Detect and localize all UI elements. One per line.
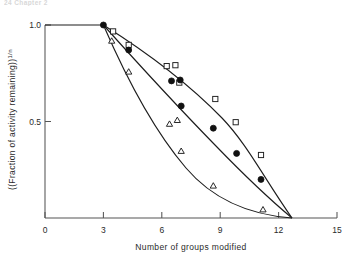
x-tick-labels: 0 3 6 9 12 15 bbox=[43, 225, 342, 235]
markers-open-squares bbox=[111, 29, 264, 158]
markers-filled-circles bbox=[100, 22, 264, 182]
axes-group bbox=[45, 25, 337, 218]
data-point-triangle bbox=[126, 69, 132, 74]
y-axis-title: (Fraction of activity remaining) bbox=[7, 62, 17, 187]
data-point-triangle bbox=[260, 207, 266, 212]
data-point-circle bbox=[126, 47, 132, 53]
data-point-circle bbox=[177, 77, 183, 83]
y-tick-label: 0.5 bbox=[29, 117, 41, 127]
data-point-triangle bbox=[178, 148, 184, 153]
data-point-circle bbox=[178, 103, 184, 109]
data-point-triangle bbox=[210, 183, 216, 188]
x-tick-label: 15 bbox=[332, 225, 342, 235]
x-tick-marks bbox=[45, 212, 337, 218]
x-tick-label: 12 bbox=[274, 225, 284, 235]
curve-filled-circles bbox=[103, 25, 292, 218]
y-tick-labels: 0.5 1.0 bbox=[29, 20, 41, 127]
curve-open-triangles bbox=[103, 25, 292, 218]
data-point-square bbox=[164, 64, 169, 69]
data-point-triangle bbox=[166, 121, 172, 126]
data-point-square bbox=[213, 96, 218, 101]
chart-plot: 0 3 6 9 12 15 0.5 1.0 Number of groups m… bbox=[0, 0, 353, 258]
markers-open-triangles bbox=[109, 38, 267, 212]
y-tick-marks bbox=[45, 25, 51, 122]
y-axis-title-exponent: 1/n bbox=[7, 49, 13, 58]
figure-container: 24 Chapter 2 0 3 6 9 12 15 bbox=[0, 0, 353, 258]
y-axis-title-group: ((Fraction of activity remaining))1/n bbox=[7, 49, 18, 190]
curve-open-squares bbox=[103, 25, 292, 218]
data-point-triangle bbox=[174, 117, 180, 122]
data-point-circle bbox=[169, 78, 175, 84]
x-tick-label: 9 bbox=[218, 225, 223, 235]
x-tick-label: 6 bbox=[159, 225, 164, 235]
data-point-circle bbox=[258, 176, 264, 182]
x-axis-title: Number of groups modified bbox=[135, 242, 246, 252]
data-point-square bbox=[233, 120, 238, 125]
y-tick-label: 1.0 bbox=[29, 20, 41, 30]
data-point-circle bbox=[234, 150, 240, 156]
x-tick-label: 3 bbox=[101, 225, 106, 235]
data-point-square bbox=[111, 29, 116, 34]
x-tick-label: 0 bbox=[43, 225, 48, 235]
data-point-square bbox=[258, 152, 263, 157]
data-point-circle bbox=[210, 125, 216, 131]
data-point-square bbox=[173, 63, 178, 68]
data-point-circle bbox=[100, 22, 106, 28]
svg-text:((Fraction of activity remaini: ((Fraction of activity remaining))1/n bbox=[7, 49, 18, 190]
